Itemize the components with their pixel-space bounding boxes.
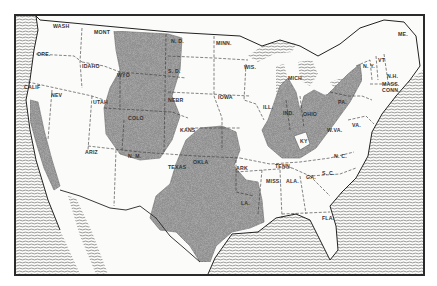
label-la: LA. <box>241 200 250 206</box>
label-ga: GA. <box>306 174 316 180</box>
label-nd: N. D. <box>171 38 184 44</box>
label-iowa: IOWA <box>218 94 233 100</box>
label-wash: WASH <box>53 23 69 29</box>
label-okla: OKLA <box>193 159 209 165</box>
label-ore: ORE. <box>37 51 51 57</box>
label-ind: IND. <box>283 110 295 116</box>
label-minn: MINN. <box>216 40 232 46</box>
label-wis: WIS. <box>244 64 256 70</box>
label-idaho: IDAHO <box>82 63 100 69</box>
label-me: ME. <box>398 31 408 37</box>
label-mont: MONT <box>94 29 111 35</box>
label-ark: ARK <box>236 165 248 171</box>
label-wyo: WYO <box>117 72 130 78</box>
label-tenn: TENN. <box>275 163 292 169</box>
label-mich: MICH <box>288 75 302 81</box>
label-va: VA. <box>352 122 361 128</box>
label-wva: W.VA. <box>327 127 343 133</box>
label-nev: NEV <box>51 92 63 98</box>
label-ala: ALA. <box>286 178 299 184</box>
label-nebr: NEBR <box>168 97 184 103</box>
label-pa: PA. <box>338 99 347 105</box>
label-ky: KY <box>300 138 308 144</box>
label-calif: CALIF <box>24 84 40 90</box>
us-map: WASH ORE. CALIF NEV IDAHO MONT WYO UTAH … <box>0 0 437 286</box>
label-sc: S. C. <box>322 170 335 176</box>
label-ny: N. Y. <box>363 63 375 69</box>
label-nh: N.H. <box>387 73 399 79</box>
label-miss: MISS. <box>266 178 281 184</box>
label-ariz: ARIZ <box>85 149 99 155</box>
label-ohio: OHIO <box>303 111 317 117</box>
label-kans: KANS <box>180 127 196 133</box>
shaded-region-plains-rockies <box>104 31 182 160</box>
label-vt: VT <box>378 57 386 63</box>
label-fla: FLA. <box>322 215 335 221</box>
label-ill: ILL. <box>263 104 273 110</box>
label-colo: COLO <box>128 115 144 121</box>
label-texas: TEXAS <box>168 164 187 170</box>
label-sd: S. D. <box>168 68 181 74</box>
label-conn: CONN. <box>382 87 400 93</box>
lake-huron <box>298 60 318 86</box>
label-nc: N. C. <box>334 153 347 159</box>
label-utah: UTAH <box>93 99 108 105</box>
label-nm: N. M. <box>128 153 142 159</box>
